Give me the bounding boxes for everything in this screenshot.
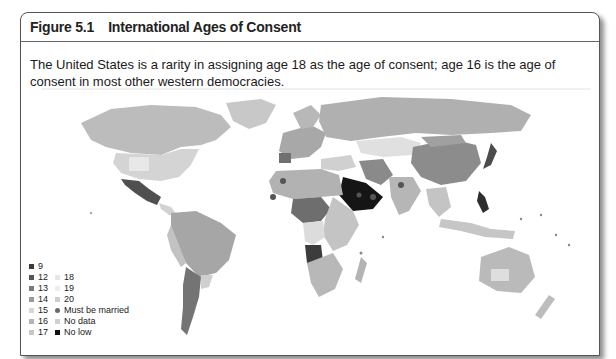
- region-mexico: [121, 179, 161, 205]
- region-scandinavia: [293, 105, 321, 129]
- legend-item-20: 20: [55, 294, 129, 305]
- legend-swatch: [55, 275, 60, 280]
- legend-swatch: [29, 297, 34, 302]
- region-russia: [319, 97, 531, 141]
- region-north-africa: [269, 169, 343, 199]
- region-argentina: [181, 267, 201, 335]
- legend-column-1: 9 12 13 14 15 16: [29, 261, 48, 338]
- legend-swatch: [29, 275, 34, 280]
- legend-swatch: [55, 330, 60, 335]
- legend-swatch: [55, 286, 60, 291]
- region-iran: [359, 159, 393, 185]
- region-greenland: [226, 99, 276, 129]
- region-japan: [483, 143, 497, 169]
- legend-swatch: [55, 319, 60, 324]
- region-canada: [81, 105, 231, 155]
- legend-swatch: [29, 264, 34, 269]
- legend-item-no-data: No data: [55, 316, 129, 327]
- region-brazil: [171, 211, 236, 277]
- region-spain: [279, 153, 291, 163]
- legend-item-no-low: No low: [55, 327, 129, 338]
- legend-item-9: 9: [29, 261, 48, 272]
- region-india: [389, 177, 421, 215]
- legend-item-12: 12: [29, 272, 48, 283]
- legend-item-15: 15: [29, 305, 48, 316]
- legend-item-14: 14: [29, 294, 48, 305]
- figure-number: Figure 5.1: [30, 19, 94, 35]
- legend-item-16: 16: [29, 316, 48, 327]
- region-new-zealand: [535, 295, 555, 319]
- legend-swatch: [55, 297, 60, 302]
- legend-swatch: [29, 308, 34, 313]
- figure-frame: Figure 5.1 International Ages of Consent…: [20, 12, 600, 356]
- legend-item-18: 18: [55, 272, 129, 283]
- legend-item-19: 19: [55, 283, 129, 294]
- figure-title: International Ages of Consent: [108, 19, 301, 35]
- region-kazakhstan: [356, 137, 421, 157]
- region-central-africa: [303, 221, 325, 245]
- region-china: [411, 139, 481, 185]
- legend-column-2: 18 19 20 Must be married No data No low: [55, 272, 129, 338]
- region-philippines: [477, 191, 489, 213]
- legend-swatch: [29, 330, 34, 335]
- legend-item-must-be-married: Must be married: [55, 305, 129, 316]
- legend-swatch: [29, 286, 34, 291]
- legend-item-17: 17: [29, 327, 48, 338]
- legend-swatch: [29, 319, 34, 324]
- legend-item-13: 13: [29, 283, 48, 294]
- region-madagascar: [355, 257, 367, 283]
- marker-must-be-married: [280, 178, 286, 184]
- region-turkey-levant: [321, 155, 356, 171]
- legend-dot-icon: [55, 308, 60, 313]
- figure-header: Figure 5.1 International Ages of Consent: [21, 13, 599, 42]
